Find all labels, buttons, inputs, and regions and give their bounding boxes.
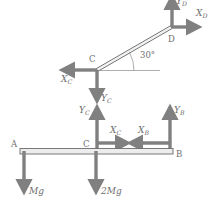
force-label-XC-beam: XC (109, 125, 121, 136)
rod-cd-fill (97, 27, 172, 70)
rod-cd-lower-edge (98, 29, 173, 72)
point-label-C-rod: C (89, 54, 96, 64)
point-label-D: D (168, 34, 175, 44)
force-label-YC-beam: YC (79, 105, 90, 116)
force-label-XC-rod: XC (60, 74, 72, 85)
force-label-2Mg: 2Mg (100, 186, 122, 196)
force-label-XD: XD (195, 8, 207, 19)
point-label-B: B (176, 149, 182, 159)
force-label-XB: XB (137, 125, 149, 136)
free-body-diagram: 30° YD XD D XC YC C YC XC (0, 0, 219, 203)
rod-cd-upper-edge (97, 26, 172, 69)
point-label-C-beam: C (83, 139, 90, 149)
force-label-YC-rod: YC (101, 93, 112, 104)
rod-cd-group: 30° YD XD D XC YC C (60, 0, 207, 104)
force-label-YB: YB (174, 105, 185, 116)
force-label-Mg: Mg (28, 186, 44, 196)
angle-arc (130, 53, 135, 71)
point-label-A: A (10, 139, 18, 149)
rod-cd-member (97, 26, 173, 72)
beam-ab-group: YC XC XB YB A B C Mg 2Mg (10, 105, 185, 196)
angle-label: 30° (140, 50, 155, 60)
force-label-YD: YD (176, 0, 187, 7)
diagram-canvas: 30° YD XD D XC YC C YC XC (0, 0, 219, 203)
